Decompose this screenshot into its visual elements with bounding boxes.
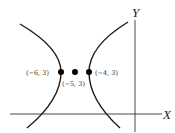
hyperbola-diagram: (−6, 3) (−5, 3) (−4, 3) Y X <box>0 0 175 133</box>
center-label: (−5, 3) <box>62 80 85 88</box>
vertex-right-point <box>86 69 92 75</box>
diagram-svg: (−6, 3) (−5, 3) (−4, 3) Y X <box>0 0 175 133</box>
vertex-left-point <box>58 69 64 75</box>
vertex-right-label: (−4, 3) <box>95 69 118 77</box>
x-axis-label: X <box>162 107 172 122</box>
center-point <box>72 69 78 75</box>
vertex-left-label: (−6, 3) <box>26 69 49 77</box>
y-axis-label: Y <box>132 5 141 20</box>
